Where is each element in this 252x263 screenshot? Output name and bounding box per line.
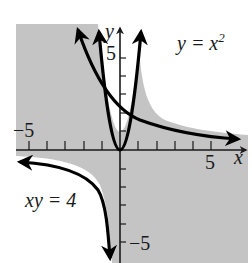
x-tick-label-neg: −5 — [13, 119, 34, 141]
y-axis-label: y — [103, 20, 114, 43]
hyperbola-label: xy = 4 — [24, 189, 76, 212]
parabola-label: y = x2 — [175, 30, 225, 55]
graph-figure: y 5 −5 −5 5 x y = x2 xy = 4 — [0, 0, 252, 263]
shaded-region — [16, 24, 248, 263]
x-axis-label: x — [233, 146, 243, 168]
x-tick-label-pos: 5 — [205, 151, 215, 173]
y-tick-label-pos: 5 — [106, 42, 116, 64]
y-tick-label-neg: −5 — [129, 232, 150, 254]
